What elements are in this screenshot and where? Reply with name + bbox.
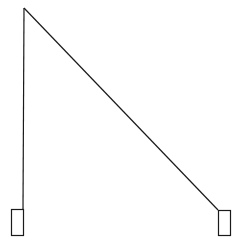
diagonal-line	[24, 8, 218, 210]
right-box	[219, 211, 231, 236]
diagram-canvas	[0, 0, 246, 244]
vertical-line	[23, 8, 24, 209]
left-box	[12, 210, 24, 236]
